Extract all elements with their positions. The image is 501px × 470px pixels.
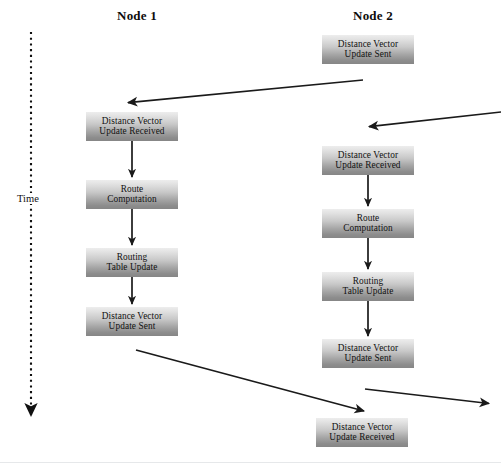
event-box-n2-distance-vector-update-sent-1: Distance Vector Update Sent (322, 35, 414, 64)
arrow-n2-sent1-to-n1-received1 (128, 80, 363, 103)
time-axis-label: Time (16, 193, 40, 204)
bottom-divider (0, 462, 501, 463)
event-box-n1-distance-vector-update-received-1: Distance Vector Update Received (86, 112, 178, 141)
arrows-overlay (0, 0, 501, 470)
event-box-n2-routing-table-update: Routing Table Update (322, 272, 414, 301)
column-title-node-1: Node 1 (97, 8, 177, 24)
event-box-n2-route-computation: Route Computation (322, 209, 414, 238)
event-box-n2-distance-vector-update-sent-2: Distance Vector Update Sent (322, 339, 414, 368)
event-box-n2-distance-vector-update-received-1: Distance Vector Update Received (322, 146, 414, 175)
event-box-n1-routing-table-update: Routing Table Update (86, 248, 178, 277)
arrow-group (128, 80, 501, 411)
sequence-diagram-canvas: Node 1 Node 2 Distance Vector Update Sen… (0, 0, 501, 470)
event-box-line-2: Update Sent (109, 322, 156, 332)
column-title-node-2: Node 2 (333, 8, 413, 24)
event-box-line-2: Update Received (329, 433, 394, 443)
event-box-line-2: Table Update (343, 287, 394, 297)
event-box-n1-route-computation: Route Computation (86, 180, 178, 209)
event-box-line-2: Computation (107, 195, 157, 205)
event-box-n1-distance-vector-update-sent-1: Distance Vector Update Sent (86, 307, 178, 336)
event-box-n2-distance-vector-update-received-2: Distance Vector Update Received (316, 418, 408, 447)
event-box-line-2: Update Sent (345, 50, 392, 60)
arrow-n2-sent2-to-outbound (365, 389, 489, 404)
event-box-line-2: Update Sent (345, 354, 392, 364)
event-box-line-2: Table Update (107, 263, 158, 273)
arrow-inbound-to-n2-received1 (369, 112, 501, 127)
event-box-line-2: Update Received (335, 161, 400, 171)
event-box-line-2: Update Received (99, 127, 164, 137)
event-box-line-2: Computation (343, 224, 393, 234)
